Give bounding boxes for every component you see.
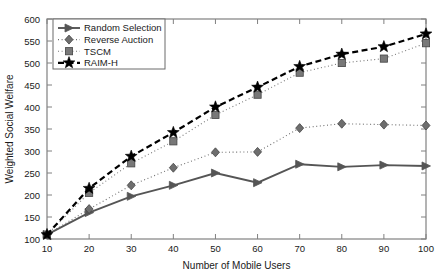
- x-tick-label: 40: [168, 243, 179, 254]
- x-tick-label: 20: [84, 243, 95, 254]
- marker-square: [212, 111, 219, 118]
- marker-right-triangle: [211, 169, 220, 177]
- marker-star: [252, 81, 264, 92]
- marker-square: [170, 138, 177, 145]
- y-tick-label: 300: [24, 146, 40, 157]
- marker-diamond: [169, 163, 177, 172]
- marker-right-triangle: [169, 181, 178, 189]
- y-tick-label: 400: [24, 102, 40, 113]
- y-tick-label: 550: [24, 36, 40, 47]
- marker-right-triangle: [380, 161, 389, 169]
- y-tick-label: 150: [24, 212, 40, 223]
- marker-diamond: [254, 147, 262, 156]
- marker-diamond: [296, 124, 304, 133]
- y-axis-title: Weighted Social Welfare: [4, 74, 15, 184]
- x-tick-label: 70: [294, 243, 305, 254]
- legend-label: Random Selection: [84, 22, 162, 33]
- legend-layer: Random SelectionReverse AuctionTSCMRAIM-…: [53, 19, 165, 69]
- series-line: [47, 164, 426, 234]
- legend-label: Reverse Auction: [84, 34, 153, 45]
- y-tick-label: 350: [24, 124, 40, 135]
- x-tick-label: 10: [42, 243, 53, 254]
- x-tick-label: 50: [210, 243, 221, 254]
- marker-star: [336, 48, 348, 59]
- x-tick-label: 90: [379, 243, 390, 254]
- marker-right-triangle: [296, 160, 305, 168]
- x-tick-label: 100: [418, 243, 434, 254]
- series-line: [47, 124, 426, 235]
- marker-square: [422, 40, 429, 47]
- y-tick-label: 600: [24, 14, 40, 25]
- marker-diamond: [211, 148, 219, 157]
- x-axis-title: Number of Mobile Users: [183, 260, 291, 271]
- legend-entry-tscm[interactable]: TSCM: [58, 46, 111, 57]
- x-tick-label: 30: [126, 243, 137, 254]
- y-tick-label: 200: [24, 190, 40, 201]
- marker-diamond: [380, 120, 388, 129]
- marker-square: [338, 59, 345, 66]
- x-tick-label: 60: [252, 243, 263, 254]
- marker-star: [378, 41, 390, 52]
- legend-label: RAIM-H: [84, 57, 118, 68]
- marker-right-triangle: [127, 192, 136, 200]
- y-tick-label: 100: [24, 234, 40, 245]
- y-tick-label: 500: [24, 58, 40, 69]
- chart-figure: Random SelectionReverse AuctionTSCMRAIM-…: [0, 0, 445, 278]
- marker-star: [167, 126, 179, 137]
- marker-right-triangle: [254, 179, 262, 187]
- legend-label: TSCM: [84, 46, 111, 57]
- x-tick-label: 80: [336, 243, 347, 254]
- marker-star: [210, 101, 222, 112]
- marker-square: [380, 55, 387, 62]
- y-tick-label: 250: [24, 168, 40, 179]
- marker-diamond: [127, 181, 135, 190]
- line-chart: Random SelectionReverse AuctionTSCMRAIM-…: [0, 0, 445, 278]
- marker-square: [254, 91, 261, 98]
- marker-diamond: [338, 119, 346, 128]
- marker-square: [65, 48, 72, 55]
- y-tick-label: 450: [24, 80, 40, 91]
- series-random-selection: [43, 160, 431, 238]
- marker-right-triangle: [338, 163, 347, 171]
